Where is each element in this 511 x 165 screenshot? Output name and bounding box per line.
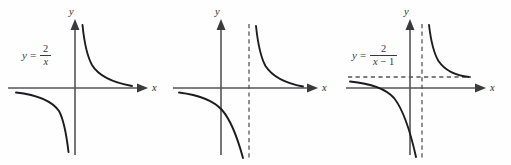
y-axis-label: y: [214, 6, 220, 17]
graph-svg-2: x y: [165, 0, 341, 165]
y-axis-arrowhead: [71, 19, 80, 30]
curve-branch-lower-left: [179, 93, 243, 159]
curve-branch-upper-right: [429, 25, 469, 77]
graph-panel-2: x y y = 2 x − 1: [165, 0, 341, 165]
fraction-numerator: 2: [40, 44, 51, 55]
y-axis-label: y: [403, 6, 409, 17]
curve-branch-lower-left: [16, 93, 69, 153]
x-axis-arrowhead: [137, 84, 148, 93]
x-axis-label: x: [151, 82, 157, 93]
fraction-denominator: x: [40, 56, 51, 67]
equation-label-1: y = 2 x: [22, 44, 52, 67]
equation-lhs: y: [22, 50, 27, 61]
graph-panel-3: x y y = 1 + 2 x − 1: [338, 0, 511, 165]
graph-panel-1: x y y = 2 x: [0, 0, 170, 165]
curve-branch-lower-left: [350, 82, 416, 158]
equation-equals: =: [30, 50, 36, 61]
x-axis-label: x: [321, 82, 327, 93]
fraction: 2 x: [40, 44, 51, 67]
graph-svg-1: x y: [0, 0, 170, 165]
y-axis-arrowhead: [217, 19, 226, 30]
x-axis-label: x: [489, 82, 495, 93]
x-axis-arrowhead: [307, 84, 318, 93]
figure-hyperbola-transformations: x y y = 2 x x: [0, 0, 511, 165]
x-axis-arrowhead: [475, 84, 486, 93]
graph-svg-3: x y: [338, 0, 511, 165]
y-axis-label: y: [68, 6, 74, 17]
denominator-variable: x: [43, 56, 48, 67]
curve-branch-upper-right: [83, 25, 133, 86]
y-axis-arrowhead: [406, 19, 415, 30]
curve-branch-upper-right: [256, 26, 303, 87]
